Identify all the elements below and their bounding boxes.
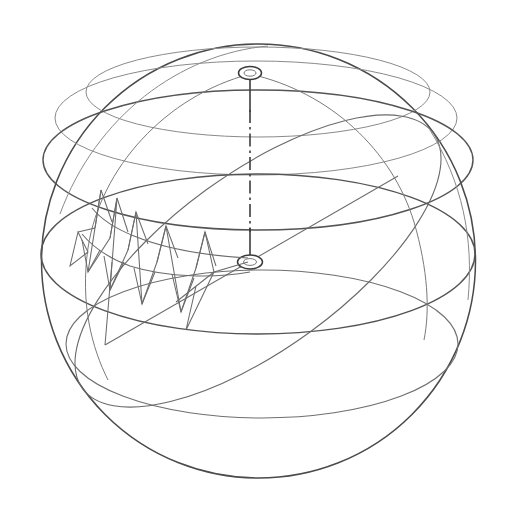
sphere-diagram [0,0,526,516]
barb-band-rail-lower [82,234,250,276]
north-pole-marker [239,67,262,80]
latitude-tropic-of-capricorn [66,270,458,418]
latitude-circles-group [41,47,475,418]
figure-canvas [0,0,526,516]
barb-spike-7 [134,268,155,304]
barb-spike-2 [157,226,178,262]
barb-spike-8 [104,256,124,290]
meridian-prime [85,74,250,380]
construction-arcs-group [60,46,469,300]
meridian-secondary [250,74,427,340]
latitude-arctic-circle [86,47,430,137]
construction-arc-right-limb [430,130,469,300]
